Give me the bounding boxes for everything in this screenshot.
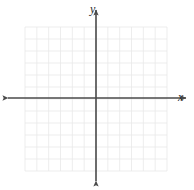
figure-background	[0, 0, 194, 190]
y-axis-label: y	[90, 3, 95, 15]
x-axis-label: x	[178, 91, 183, 103]
coordinate-plane-svg	[0, 0, 194, 190]
coordinate-grid-figure: y x	[0, 0, 194, 190]
